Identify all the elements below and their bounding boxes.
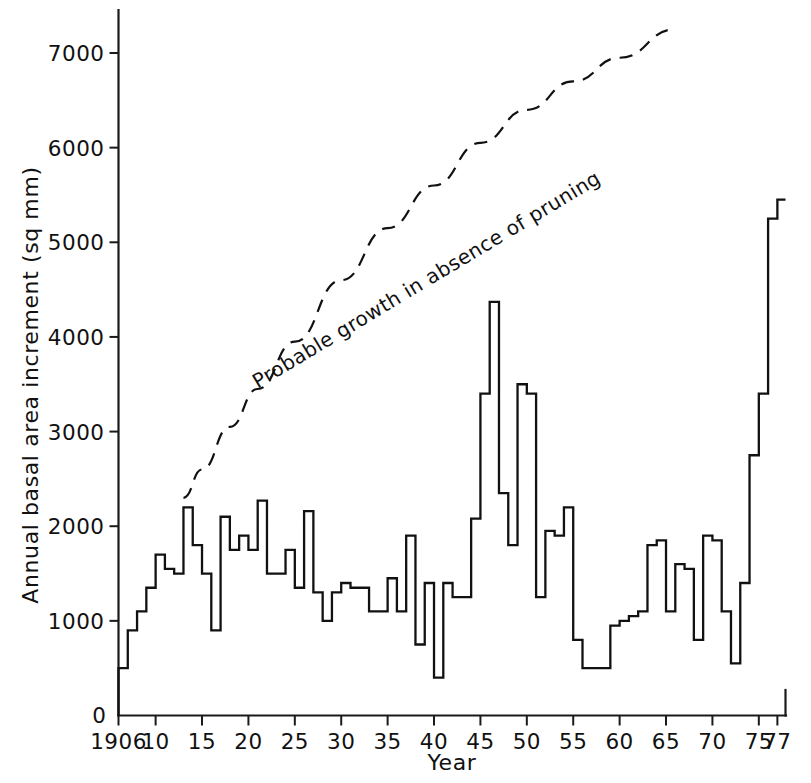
- x-tick-label: 25: [281, 729, 309, 754]
- chart-figure: 1000200030004000500060007000 19061015202…: [0, 0, 811, 783]
- y-ticks-group: [110, 53, 119, 621]
- y-tick-label: 5000: [48, 230, 105, 255]
- axes-group: [119, 10, 787, 716]
- y-tick-label: 3000: [48, 420, 105, 445]
- x-tick-label: 55: [559, 729, 587, 754]
- x-tick-label: 65: [652, 729, 680, 754]
- x-tick-label: 15: [188, 729, 216, 754]
- x-tick-label: 60: [605, 729, 633, 754]
- chart-svg: 1000200030004000500060007000 19061015202…: [0, 0, 811, 783]
- annotation-label: Probable growth in absence of pruning: [248, 166, 605, 394]
- annotation-probable-growth: Probable growth in absence of pruning: [248, 166, 605, 394]
- origin-label: 0: [92, 703, 106, 728]
- y-tick-label: 7000: [48, 41, 105, 66]
- x-tick-label: 35: [373, 729, 401, 754]
- x-ticks-group: [119, 716, 778, 726]
- x-tick-label: 70: [698, 729, 726, 754]
- y-tick-label: 6000: [48, 136, 105, 161]
- x-tick-label: 50: [513, 729, 541, 754]
- x-tick-label: 30: [327, 729, 355, 754]
- x-tick-label: 10: [141, 729, 169, 754]
- y-tick-label: 4000: [48, 325, 105, 350]
- x-tick-label: 1906: [90, 729, 147, 754]
- x-axis-title: Year: [427, 750, 477, 775]
- x-tick-label: 77: [763, 729, 791, 754]
- y-tick-labels: 1000200030004000500060007000: [48, 41, 105, 634]
- y-tick-label: 2000: [48, 514, 105, 539]
- y-axis-title: Annual basal area increment (sq mm): [18, 166, 43, 603]
- x-tick-label: 20: [234, 729, 262, 754]
- y-tick-label: 1000: [48, 609, 105, 634]
